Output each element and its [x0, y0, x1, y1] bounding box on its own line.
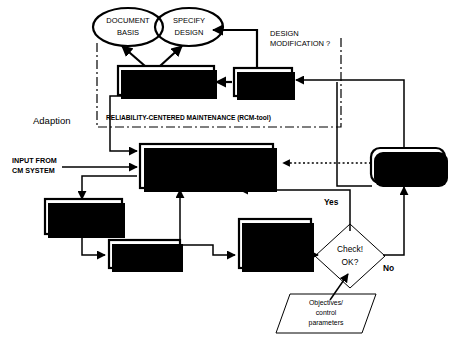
- rcm-analysis-line2: ANALYSIS: [245, 83, 281, 92]
- perform-maintenance-line2: MAINTENANCE: [56, 218, 109, 227]
- reports-from-line3: OPERATION: [254, 251, 295, 259]
- label-design-modification: DESIGN MODIFICATION ?: [270, 29, 330, 48]
- connector-req-to-document-basis: [122, 46, 145, 66]
- label-yes: Yes: [324, 197, 339, 207]
- objectives-line2: control: [316, 309, 337, 316]
- connector-boundary-down-to-improvement: [337, 82, 372, 186]
- node-specify-design: SPECIFY DESIGN: [155, 8, 223, 46]
- report-to-mms-label: Report to MMS: [118, 250, 169, 259]
- objectives-line1: Objectives/: [309, 299, 343, 307]
- check-ok-line1: Check!: [337, 244, 363, 254]
- specify-design-line1: SPECIFY: [173, 16, 205, 25]
- node-perform-maintenance: PERFORM MAINTENANCE: [45, 199, 125, 238]
- document-basis-line2: BASIS: [117, 28, 139, 37]
- node-maintenance-requirements: MAINTENANCE REQUIREMENTS: [118, 66, 217, 99]
- node-report-to-mms: Report to MMS: [109, 240, 183, 272]
- objectives-line3: parameters: [309, 319, 344, 327]
- rcm-tool-boundary-label: RELIABILITY-CENTERED MAINTENANCE (RCM-to…: [106, 114, 271, 122]
- perform-maintenance-line1: PERFORM: [65, 205, 102, 214]
- implementation-line3: MANAGEMENT SYSTEM: [161, 174, 252, 183]
- connector-perform-to-report: [82, 238, 105, 255]
- check-ok-line2: OK?: [342, 257, 359, 267]
- reports-from-line1: REPORTS FROM: [246, 227, 303, 235]
- input-from-cm-line2: CM SYSTEM: [12, 166, 55, 175]
- connector-adaption-to-implementation: [110, 96, 167, 151]
- label-input-from-cm-system: INPUT FROM CM SYSTEM: [12, 156, 57, 175]
- node-reports-from-maintenance: REPORTS FROM MAINTENANCE/ OPERATION: [239, 219, 314, 272]
- improvement-actions-line1: Improvement: [383, 153, 434, 163]
- rcm-analysis-line1: RCM: [254, 71, 271, 80]
- node-check-ok: Check! OK?: [315, 224, 385, 288]
- node-improvement-actions: Improvement action(s): [371, 148, 448, 187]
- document-basis-line1: DOCUMENT: [106, 16, 150, 25]
- implementation-line2: MAINTENANCE: [177, 162, 235, 171]
- node-rcm-analysis: RCM ANALYSIS: [234, 68, 295, 100]
- maintenance-requirements-line2: REQUIREMENTS: [136, 82, 196, 91]
- connector-improvement-to-rcm-boundary: [296, 80, 404, 148]
- flowchart-svg: DOCUMENT BASIS SPECIFY DESIGN DESIGN MOD…: [0, 0, 460, 349]
- connector-report-to-reports-from: [180, 245, 235, 255]
- improvement-actions-line2: action(s): [392, 166, 425, 176]
- node-implementation: IMPLEMENTATION IN MAINTENANCE MANAGEMENT…: [140, 144, 277, 192]
- diagram-canvas: DOCUMENT BASIS SPECIFY DESIGN DESIGN MOD…: [0, 0, 460, 349]
- label-adaption: Adaption: [33, 115, 71, 126]
- node-objectives-control-parameters: Objectives/ control parameters: [276, 294, 376, 333]
- connector-check-no-to-improvement: [383, 187, 404, 255]
- node-document-basis: DOCUMENT BASIS: [93, 8, 163, 46]
- reports-from-line2: MAINTENANCE/: [248, 239, 302, 247]
- maintenance-requirements-line1: MAINTENANCE: [139, 69, 194, 78]
- design-modification-line2: MODIFICATION ?: [270, 39, 330, 48]
- connector-req-to-specify-design: [160, 46, 182, 66]
- specify-design-line2: DESIGN: [175, 28, 204, 37]
- label-no: No: [383, 263, 394, 273]
- design-modification-line1: DESIGN: [270, 29, 299, 38]
- input-from-cm-line1: INPUT FROM: [12, 156, 57, 165]
- connector-implementation-to-perform: [82, 176, 137, 199]
- implementation-line1: IMPLEMENTATION IN: [167, 150, 245, 159]
